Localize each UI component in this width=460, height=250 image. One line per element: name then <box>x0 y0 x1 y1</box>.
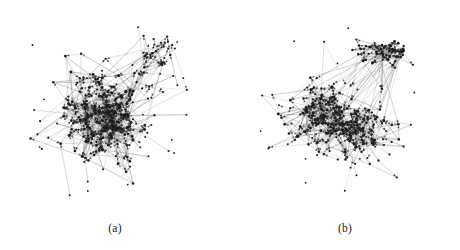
graph-node <box>318 151 320 153</box>
graph-node <box>101 148 104 151</box>
graph-node <box>376 53 379 56</box>
graph-node <box>321 109 323 111</box>
graph-node <box>354 146 357 149</box>
graph-node <box>142 35 144 37</box>
graph-node <box>366 116 368 118</box>
graph-node <box>355 121 358 124</box>
graph-node <box>311 117 313 119</box>
graph-node <box>75 129 77 131</box>
graph-node <box>361 130 363 132</box>
graph-node <box>110 109 113 112</box>
graph-node <box>79 120 81 122</box>
graph-node <box>62 106 65 109</box>
graph-node <box>118 121 121 124</box>
graph-node <box>397 55 399 57</box>
graph-node <box>84 107 87 110</box>
graph-node <box>374 42 376 44</box>
graph-node <box>344 148 346 150</box>
graph-node <box>120 128 122 130</box>
graph-node <box>261 94 263 96</box>
graph-node <box>146 132 148 134</box>
graph-node <box>85 157 87 159</box>
graph-node <box>323 41 325 43</box>
graph-node <box>117 74 120 77</box>
graph-node <box>352 139 354 141</box>
graph-node <box>68 134 71 137</box>
graph-node <box>124 90 127 93</box>
graph-node <box>346 123 349 126</box>
graph-node <box>91 115 93 117</box>
network-graph-b <box>230 0 460 218</box>
graph-node <box>147 45 149 47</box>
graph-node <box>129 98 131 100</box>
graph-node <box>312 102 315 105</box>
graph-node <box>127 184 129 186</box>
graph-node <box>331 85 333 87</box>
graph-node <box>349 140 351 142</box>
graph-node <box>346 107 349 110</box>
graph-node <box>313 118 316 121</box>
graph-node <box>299 125 301 127</box>
graph-node <box>346 121 348 123</box>
graph-node <box>115 155 117 157</box>
graph-node <box>119 95 121 97</box>
graph-node <box>321 138 323 140</box>
graph-node <box>41 148 43 150</box>
graph-node <box>311 114 314 117</box>
graph-node <box>306 111 308 113</box>
graph-node <box>95 133 97 135</box>
graph-node <box>75 111 77 113</box>
graph-node <box>330 116 332 118</box>
graph-node <box>340 132 342 134</box>
graph-node <box>87 190 89 192</box>
graph-node <box>143 66 146 69</box>
graph-node <box>337 158 339 160</box>
graph-node <box>74 150 77 153</box>
graph-node <box>72 122 74 124</box>
graph-node <box>309 76 312 79</box>
graph-node <box>111 86 113 88</box>
graph-node <box>383 144 385 146</box>
graph-node <box>401 48 403 50</box>
graph-node <box>331 101 333 103</box>
graph-node <box>334 98 336 100</box>
graph-node <box>305 158 307 160</box>
graph-node <box>349 121 351 123</box>
graph-node <box>382 59 384 61</box>
graph-node <box>133 72 136 75</box>
graph-node <box>369 128 371 130</box>
graph-node <box>129 88 131 90</box>
graph-node <box>102 168 104 170</box>
graph-node <box>342 125 344 127</box>
graph-node <box>96 88 98 90</box>
graph-node <box>356 124 359 127</box>
graph-node <box>108 135 110 137</box>
graph-node <box>324 122 327 125</box>
graph-node <box>382 138 384 140</box>
graph-node <box>305 182 307 184</box>
graph-node <box>131 89 134 92</box>
graph-node <box>114 128 117 131</box>
graph-node <box>162 91 164 93</box>
graph-node <box>132 101 134 103</box>
graph-node <box>95 150 98 153</box>
graph-node <box>94 112 97 115</box>
graph-node <box>126 156 129 159</box>
graph-node <box>93 106 96 109</box>
graph-node <box>402 45 404 47</box>
graph-node <box>84 94 86 96</box>
graph-node <box>367 53 369 55</box>
graph-node <box>369 163 371 165</box>
graph-node <box>84 140 87 143</box>
graph-node <box>131 138 134 141</box>
graph-node <box>372 141 374 143</box>
graph-node <box>303 130 306 133</box>
graph-node <box>333 83 335 85</box>
graph-node <box>360 151 362 153</box>
graph-node <box>132 182 134 184</box>
graph-node <box>110 105 112 107</box>
graph-node <box>396 176 398 178</box>
graph-node <box>171 44 173 46</box>
graph-node <box>316 154 318 156</box>
graph-node <box>92 134 95 137</box>
